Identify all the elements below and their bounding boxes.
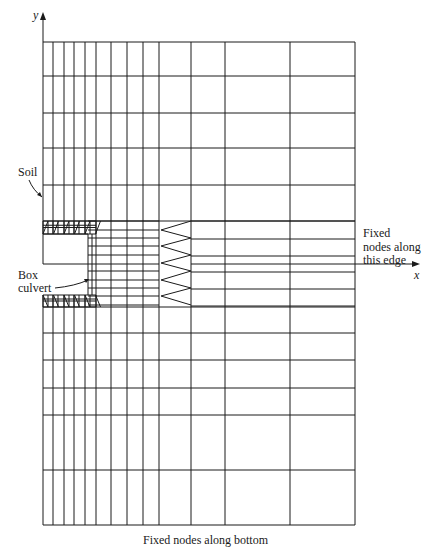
- zigzag-transition-line: [161, 271, 191, 280]
- zigzag-transition-line: [161, 230, 191, 238]
- soil-label: Soil: [18, 165, 37, 179]
- box-culvert-label-line1: Box: [18, 268, 38, 282]
- zigzag-transition-line: [161, 238, 191, 246]
- box-culvert-leader-arrow: [55, 280, 88, 288]
- fixed-edge-label-line3: this edge: [363, 253, 406, 267]
- zigzag-transition-line: [161, 296, 191, 305]
- fixed-bottom-label: Fixed nodes along bottom: [143, 533, 268, 547]
- zigzag-transition-line: [161, 221, 191, 230]
- zigzag-transition-line: [161, 246, 191, 255]
- zigzag-transition-line: [161, 288, 191, 296]
- box-culvert-label-line2: culvert: [18, 281, 51, 295]
- fixed-edge-label-line2: nodes along: [363, 240, 421, 254]
- zigzag-transition-line: [161, 263, 191, 271]
- y-axis-arrowhead-icon: [40, 12, 46, 20]
- finite-element-mesh-diagram: [0, 0, 440, 553]
- x-axis-label: x: [414, 268, 419, 282]
- fixed-edge-label-line1: Fixed: [363, 226, 390, 240]
- zigzag-transition-line: [161, 255, 191, 263]
- zigzag-transition-line: [161, 280, 191, 288]
- y-axis-label: y: [33, 8, 38, 22]
- x-axis-arrowhead-icon: [412, 261, 420, 267]
